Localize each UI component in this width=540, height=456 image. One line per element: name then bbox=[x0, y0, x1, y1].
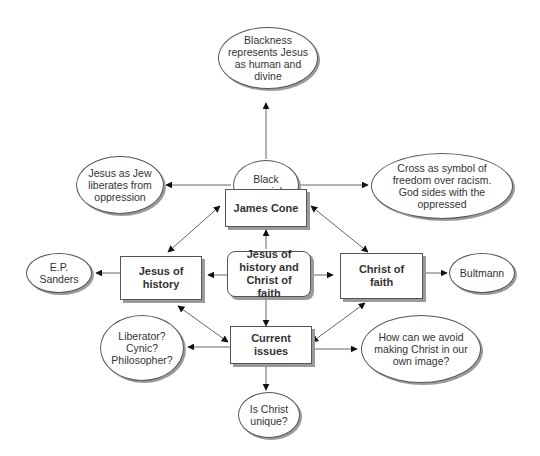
edge-cone-faith bbox=[311, 206, 368, 252]
edge-history-cone bbox=[168, 206, 220, 252]
node-cross-symbol: Cross as symbol of freedom over racism. … bbox=[371, 153, 513, 219]
node-bultmann: Bultmann bbox=[449, 253, 515, 293]
node-christ-of-faith: Christ of faith bbox=[340, 253, 423, 299]
node-avoid-own-image: How can we avoid making Christ in our ow… bbox=[361, 315, 481, 383]
node-center-jesus-history-christ-faith: Jesus of history and Christ of faith bbox=[227, 251, 311, 297]
node-james-cone: James Cone bbox=[225, 189, 307, 227]
node-blackness: Blackness represents Jesus as human and … bbox=[218, 27, 318, 89]
edge-history-issues bbox=[178, 306, 228, 342]
node-liberator-cynic-philosopher: Liberator? Cynic? Philosopher? bbox=[100, 315, 184, 381]
node-ep-sanders: E.P. Sanders bbox=[26, 253, 92, 293]
node-jesus-of-history: Jesus of history bbox=[120, 256, 202, 300]
node-current-issues: Current issues bbox=[230, 326, 312, 364]
node-jesus-as-jew: Jesus as Jew liberates from oppression bbox=[76, 156, 164, 214]
node-is-christ-unique: Is Christ unique? bbox=[238, 392, 300, 438]
edge-faith-issues bbox=[312, 303, 365, 342]
